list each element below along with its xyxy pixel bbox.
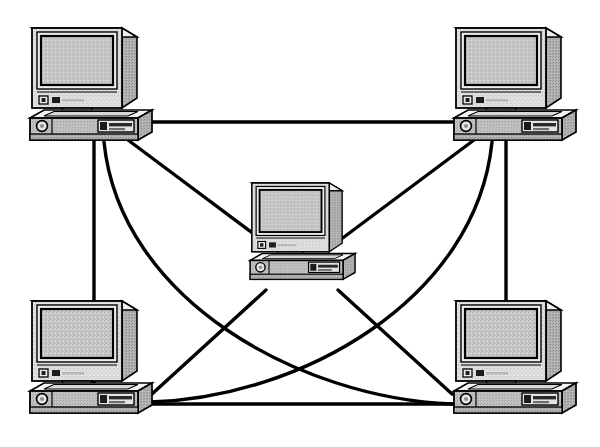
link-top-right-to-center (340, 140, 474, 240)
diagram-canvas: Fully Meshed Computer Network Topology (0, 0, 600, 447)
node-pc-bottom-left[interactable] (30, 301, 152, 413)
node-pc-top-left[interactable] (30, 28, 152, 140)
node-pc-top-right[interactable] (454, 28, 576, 140)
network-nodes-layer (30, 28, 576, 413)
network-topology-diagram (0, 0, 600, 447)
node-pc-center[interactable] (250, 183, 355, 279)
node-pc-bottom-right[interactable] (454, 301, 576, 413)
link-top-left-to-center (128, 140, 262, 240)
